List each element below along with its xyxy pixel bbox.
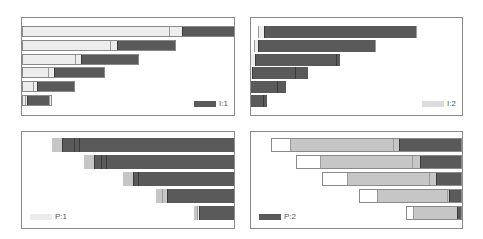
bar-outline [22,40,176,51]
bar-segment [167,189,235,203]
legend-swatch [259,214,281,220]
legend-label: I:2 [447,99,456,108]
bar-outline [22,81,75,92]
bar-segment [79,138,235,152]
bar-outline [359,189,462,203]
chart-panel-i2: I:2 [250,17,463,116]
bar-segment [336,54,340,66]
bar-outline [22,54,139,65]
bar-outline [296,155,462,169]
bar-segment [251,95,263,107]
bar-segment [62,138,74,152]
chart-panel-p1: P:1 [21,131,235,229]
bar-outline [322,172,462,186]
chart-panel-p2: P:2 [250,131,463,229]
bar-segment [106,155,235,169]
bar-segment [52,138,62,152]
legend-label: I:1 [219,99,228,108]
bar-segment [263,95,267,107]
bar-segment [234,26,235,37]
bar-segment [264,26,416,38]
bar-segment [138,172,235,186]
legend: I:2 [422,99,456,108]
legend: P:1 [30,212,67,221]
legend-swatch [194,101,216,107]
bar-segment [277,81,286,93]
bar-segment [255,54,336,66]
legend: P:2 [259,212,296,221]
bar-segment [199,206,235,220]
legend-swatch [422,101,444,107]
bar-segment [251,26,258,38]
legend: I:1 [194,99,228,108]
bar-segment [258,40,375,52]
bar-outline [22,95,52,106]
legend-label: P:2 [284,212,296,221]
bar-segment [84,155,94,169]
bar-segment [295,67,308,79]
legend-swatch [30,214,52,220]
bar-segment [252,67,295,79]
bar-outline [22,26,235,37]
bar-segment [251,81,277,93]
bar-segment [123,172,133,186]
bar-outline [22,67,105,78]
legend-label: P:1 [55,212,67,221]
bar-segment [375,40,379,52]
bar-segment [416,26,428,38]
bar-segment [94,155,101,169]
bar-outline [271,138,462,152]
bar-outline [406,206,462,220]
chart-panel-i1: I:1 [21,17,235,116]
